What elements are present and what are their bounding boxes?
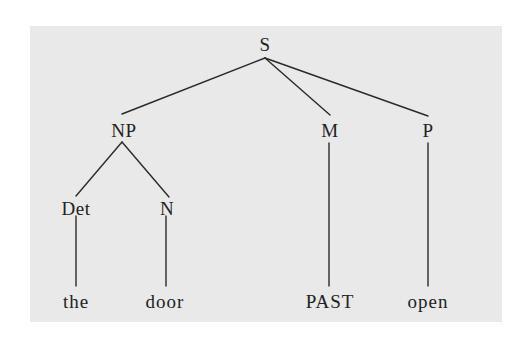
edge-s-np xyxy=(122,58,265,114)
leaf-past: PAST xyxy=(306,292,355,311)
node-det: Det xyxy=(62,199,91,218)
edge-s-p xyxy=(265,58,428,116)
node-n: N xyxy=(160,199,174,218)
edge-np-det xyxy=(76,142,122,196)
node-np: NP xyxy=(111,121,136,140)
node-s: S xyxy=(259,35,270,54)
edge-np-n xyxy=(122,142,169,197)
leaf-open: open xyxy=(408,292,449,311)
node-m: M xyxy=(321,121,338,140)
leaf-door: door xyxy=(146,292,185,311)
leaf-the: the xyxy=(63,292,89,311)
edge-s-m xyxy=(265,58,330,115)
node-p: P xyxy=(422,121,433,140)
